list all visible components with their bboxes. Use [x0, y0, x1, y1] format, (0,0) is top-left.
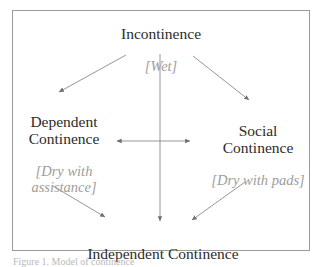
node-dependent-continence-label: Dependent Continence: [6, 113, 122, 148]
node-social-continence-sublabel: [Dry with pads]: [196, 173, 320, 189]
node-social-continence-label: Social Continence: [196, 122, 320, 157]
node-incontinence-label: Incontinence: [86, 25, 236, 42]
node-incontinence-sublabel: [Wet]: [86, 59, 236, 75]
node-social-continence: Social Continence [Dry with pads]: [196, 105, 320, 206]
node-dependent-continence-sublabel: [Dry with assistance]: [6, 164, 122, 196]
figure-root: Incontinence [Wet] Dependent Continence …: [0, 0, 323, 267]
node-dependent-continence: Dependent Continence [Dry with assistanc…: [6, 96, 122, 213]
figure-caption: Figure 1. Model of continence: [13, 256, 313, 267]
node-incontinence: Incontinence [Wet]: [86, 8, 236, 92]
